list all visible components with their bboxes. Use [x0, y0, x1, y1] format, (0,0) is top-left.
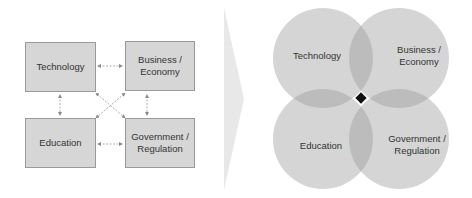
circle-business-text-2: Economy: [384, 56, 454, 68]
box-government: Government / Regulation: [125, 118, 195, 168]
box-technology-label: Technology: [36, 61, 84, 72]
connectors-layer: [0, 0, 472, 198]
circle-technology-label: Technology: [282, 50, 352, 62]
box-business-label-1: Business /: [138, 54, 182, 66]
chevron-right-icon: [224, 8, 244, 190]
box-education-label: Education: [39, 137, 81, 148]
circle-education-label: Education: [286, 140, 356, 152]
box-technology: Technology: [25, 42, 96, 92]
box-business-label-2: Economy: [138, 66, 182, 78]
circle-education-text: Education: [300, 140, 342, 151]
circle-business-label: Business / Economy: [384, 44, 454, 68]
circle-government-text-2: Regulation: [377, 145, 457, 157]
box-government-label-1: Government /: [131, 131, 189, 143]
circle-technology-text: Technology: [293, 50, 341, 61]
circle-business-text-1: Business /: [384, 44, 454, 56]
box-business: Business / Economy: [125, 41, 195, 91]
box-government-label-2: Regulation: [131, 143, 189, 155]
box-education: Education: [25, 118, 96, 168]
circle-government-label: Government / Regulation: [377, 133, 457, 157]
circle-government-text-1: Government /: [377, 133, 457, 145]
